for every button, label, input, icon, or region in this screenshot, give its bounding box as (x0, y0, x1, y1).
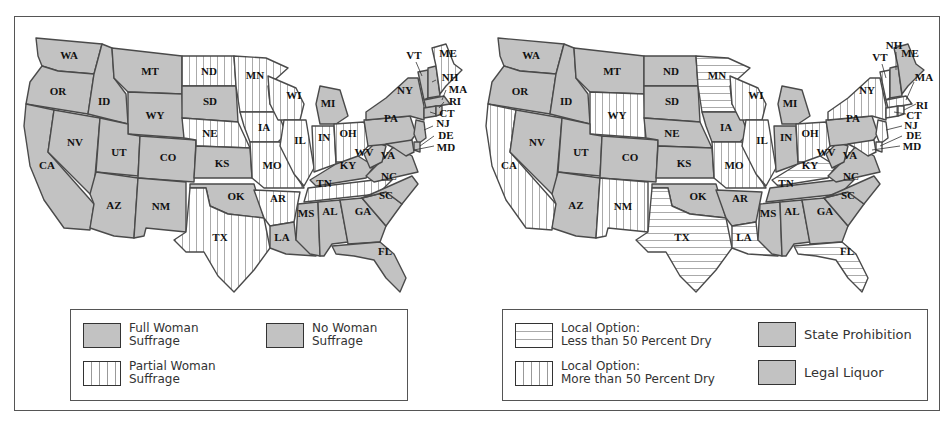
svg-text:NV: NV (529, 136, 545, 148)
svg-text:PA: PA (846, 112, 860, 124)
state-NJ (876, 120, 888, 144)
legend-item-partial-suffrage: Partial WomanSuffrage (83, 360, 216, 386)
prohibition-legend: Local Option:Less than 50 Percent Dry St… (502, 309, 928, 401)
legend-label: State Prohibition (804, 328, 912, 341)
svg-text:MO: MO (725, 159, 744, 171)
svg-text:SC: SC (379, 189, 393, 201)
svg-text:TX: TX (212, 231, 227, 243)
svg-text:MA: MA (449, 83, 467, 95)
legend-label: More than 50 Percent Dry (561, 373, 715, 386)
svg-text:ND: ND (201, 65, 217, 77)
svg-text:KS: KS (215, 157, 230, 169)
svg-text:OR: OR (50, 85, 68, 97)
state-DE (876, 142, 882, 152)
svg-text:CO: CO (622, 151, 639, 163)
prohibition-map-panel: WA OR CA NV ID MT WY UT CO AZ NM ND SD N… (480, 16, 940, 411)
svg-text:GA: GA (355, 205, 372, 217)
svg-text:MS: MS (760, 207, 777, 219)
legend-item-legal-liquor: Legal Liquor (758, 360, 884, 385)
svg-text:MS: MS (298, 207, 315, 219)
svg-text:KY: KY (802, 159, 819, 171)
woman-suffrage-map: WA OR CA NV ID MT WY UT CO AZ NM ND SD N… (14, 16, 480, 316)
svg-text:NC: NC (381, 170, 397, 182)
svg-text:WI: WI (286, 89, 301, 101)
gray-swatch-icon (758, 322, 796, 347)
svg-text:AR: AR (270, 192, 287, 204)
svg-text:TN: TN (778, 177, 793, 189)
svg-text:VT: VT (406, 49, 422, 61)
legend-label: Suffrage (312, 335, 377, 348)
svg-text:NM: NM (152, 200, 171, 212)
svg-text:IA: IA (720, 121, 732, 133)
svg-text:MI: MI (783, 97, 798, 109)
legend-label: Less than 50 Percent Dry (561, 335, 712, 348)
svg-text:WV: WV (817, 146, 836, 158)
legend-label: Suffrage (129, 373, 216, 386)
svg-text:MT: MT (603, 65, 621, 77)
state-RI (898, 106, 904, 116)
prohibition-map: WA OR CA NV ID MT WY UT CO AZ NM ND SD N… (480, 16, 940, 316)
svg-text:AL: AL (784, 205, 799, 217)
gray-swatch-icon (266, 323, 304, 348)
svg-text:GA: GA (817, 205, 834, 217)
svg-text:AL: AL (322, 205, 337, 217)
svg-text:WI: WI (748, 89, 763, 101)
svg-text:ID: ID (98, 95, 110, 107)
svg-text:NE: NE (202, 127, 217, 139)
legend-item-full-suffrage: Full WomanSuffrage (83, 322, 199, 348)
svg-text:LA: LA (736, 231, 751, 243)
legend-item-local-option-more-dry: Local Option:More than 50 Percent Dry (515, 360, 715, 386)
state-DE (414, 142, 420, 152)
svg-text:LA: LA (274, 231, 289, 243)
svg-text:ID: ID (560, 95, 572, 107)
svg-text:AR: AR (732, 192, 749, 204)
svg-text:AZ: AZ (106, 199, 121, 211)
vertical-stripes-swatch-icon (83, 361, 121, 386)
svg-text:SD: SD (665, 95, 679, 107)
svg-text:SD: SD (203, 95, 217, 107)
svg-text:RI: RI (449, 95, 461, 107)
svg-text:VT: VT (872, 51, 888, 63)
svg-text:WV: WV (355, 146, 374, 158)
gray-swatch-icon (83, 323, 121, 348)
svg-text:OK: OK (689, 190, 707, 202)
legend-label: Suffrage (129, 335, 199, 348)
svg-text:OK: OK (227, 190, 245, 202)
svg-text:MN: MN (708, 69, 726, 81)
svg-text:ME: ME (901, 47, 919, 59)
state-FL (794, 242, 868, 292)
svg-text:NE: NE (664, 127, 679, 139)
svg-text:NV: NV (67, 136, 83, 148)
state-FL (332, 242, 406, 292)
svg-text:TX: TX (674, 231, 689, 243)
svg-text:IN: IN (780, 131, 792, 143)
svg-text:NJ: NJ (436, 117, 450, 129)
svg-text:IA: IA (258, 121, 270, 133)
svg-text:WA: WA (60, 49, 78, 61)
woman-suffrage-map-panel: WA OR CA NV ID MT WY UT CO AZ NM ND SD N… (14, 16, 480, 411)
svg-text:MA: MA (915, 71, 933, 83)
svg-text:MD: MD (437, 141, 455, 153)
horizontal-stripes-swatch-icon (515, 323, 553, 348)
svg-text:IL: IL (756, 134, 768, 146)
svg-text:WA: WA (522, 49, 540, 61)
svg-text:ND: ND (663, 65, 679, 77)
svg-text:KS: KS (677, 157, 692, 169)
svg-text:FL: FL (378, 245, 392, 257)
legend-label: Legal Liquor (804, 366, 884, 379)
gray-swatch-icon (758, 360, 796, 385)
svg-text:DE: DE (438, 129, 453, 141)
svg-text:OR: OR (512, 85, 530, 97)
svg-text:NY: NY (397, 84, 413, 96)
svg-text:NM: NM (614, 200, 633, 212)
svg-text:NC: NC (843, 170, 859, 182)
svg-text:AZ: AZ (568, 199, 583, 211)
svg-text:OH: OH (801, 127, 819, 139)
svg-text:MI: MI (321, 97, 336, 109)
svg-text:NY: NY (859, 84, 875, 96)
svg-text:MD: MD (903, 140, 921, 152)
svg-text:KY: KY (340, 159, 357, 171)
woman-suffrage-legend: Full WomanSuffrage No WomanSuffrage Part… (70, 309, 408, 401)
svg-text:TN: TN (316, 177, 331, 189)
svg-text:ME: ME (439, 47, 457, 59)
